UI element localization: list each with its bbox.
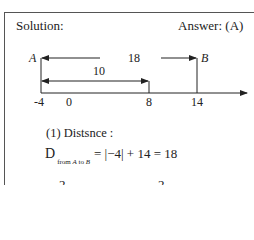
point-a-label: A xyxy=(29,52,36,64)
tick-label: 0 xyxy=(66,96,72,108)
tick-label: 14 xyxy=(191,96,203,108)
tick-label: -4 xyxy=(34,96,44,108)
distance-step-label: (1) Distsnce : xyxy=(46,127,113,140)
formula-symbol: D xyxy=(45,146,55,161)
formula-rhs: = |−4| + 14 = 18 xyxy=(94,146,177,161)
partial-next-line-fragment: 2 xyxy=(158,177,165,185)
point-b-label: B xyxy=(201,52,208,64)
partial-next-line-fragment: 2 xyxy=(59,177,66,185)
distance-formula: Dfrom A to B= |−4| + 14 = 18 xyxy=(45,146,177,162)
distance-10-label: 10 xyxy=(93,65,105,77)
tick-label: 8 xyxy=(146,96,152,108)
distance-ab-label: 18 xyxy=(128,52,140,64)
formula-subscript: from A to B xyxy=(57,158,90,166)
